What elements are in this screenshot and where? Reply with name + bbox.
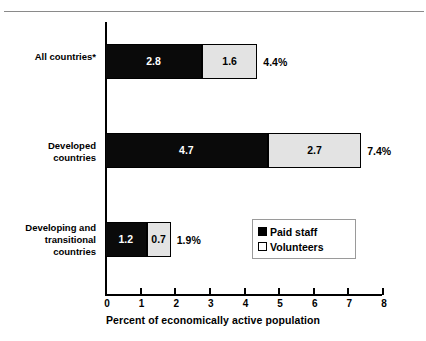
x-axis-tick	[174, 288, 176, 295]
x-axis-tick	[140, 288, 142, 295]
bar-row: 2.81.64.4%	[0, 44, 426, 79]
legend-item-paid-staff: Paid staff	[258, 224, 350, 239]
legend-swatch-volunteers-icon	[258, 242, 267, 251]
bar-segment-volunteers: 1.6	[202, 44, 257, 79]
x-axis-tick-label: 1	[130, 298, 154, 310]
bar-total-label: 7.4%	[361, 133, 391, 168]
x-axis-tick-label: 8	[372, 298, 396, 310]
x-axis-tick	[313, 288, 315, 295]
x-axis-tick	[347, 288, 349, 295]
bar-segment-value-label: 1.2	[118, 234, 133, 245]
bar-segment-paid-staff: 1.2	[105, 222, 147, 257]
x-axis-title: Percent of economically active populatio…	[0, 314, 426, 326]
bar-segment-value-label: 2.8	[146, 56, 161, 67]
chart-figure: 012345678 Percent of economically active…	[0, 0, 426, 341]
bar-segment-paid-staff: 4.7	[105, 133, 268, 168]
bar-segment-value-label: 0.7	[151, 234, 166, 245]
x-axis-tick-label: 2	[164, 298, 188, 310]
legend-label-paid-staff: Paid staff	[270, 226, 317, 238]
bar-row: 4.72.77.4%	[0, 133, 426, 168]
top-divider-rule	[4, 11, 424, 12]
legend-label-volunteers: Volunteers	[270, 241, 323, 253]
x-axis-tick-label: 6	[303, 298, 327, 310]
bar-total-label: 1.9%	[171, 222, 201, 257]
legend-item-volunteers: Volunteers	[258, 239, 350, 254]
legend-swatch-paid-staff-icon	[258, 227, 267, 236]
bar-segment-value-label: 2.7	[307, 145, 322, 156]
x-axis-tick	[382, 288, 384, 295]
x-axis-tick	[209, 288, 211, 295]
bar-segment-volunteers: 0.7	[147, 222, 171, 257]
bar-segment-value-label: 1.6	[222, 56, 237, 67]
x-axis-tick-label: 5	[268, 298, 292, 310]
x-axis-tick-label: 3	[199, 298, 223, 310]
x-axis-tick-label: 4	[234, 298, 258, 310]
x-axis-tick	[105, 288, 107, 295]
chart-legend: Paid staff Volunteers	[252, 219, 356, 259]
x-axis-tick-label: 7	[337, 298, 361, 310]
bar-segment-paid-staff: 2.8	[105, 44, 202, 79]
x-axis-tick	[244, 288, 246, 295]
bar-segment-volunteers: 2.7	[268, 133, 361, 168]
bar-total-label: 4.4%	[257, 44, 287, 79]
x-axis-tick-label: 0	[95, 298, 119, 310]
bar-row: 1.20.71.9%	[0, 222, 426, 257]
x-axis-tick	[278, 288, 280, 295]
bar-segment-value-label: 4.7	[179, 145, 194, 156]
